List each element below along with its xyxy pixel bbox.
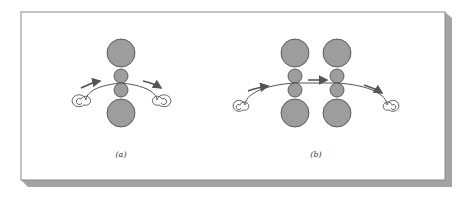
work-roll-top bbox=[114, 69, 128, 83]
backup-roll-top bbox=[281, 39, 309, 67]
backup-roll-bottom bbox=[107, 99, 135, 127]
backup-roll-top bbox=[323, 39, 351, 67]
work-roll-bottom bbox=[288, 83, 302, 97]
work-roll-top bbox=[288, 69, 302, 83]
backup-roll-top bbox=[107, 39, 135, 67]
panel-b-label: (b) bbox=[310, 150, 321, 159]
backup-roll-bottom bbox=[281, 99, 309, 127]
rolling-mill-diagram: (a) (b) bbox=[0, 0, 470, 197]
backup-roll-bottom bbox=[323, 99, 351, 127]
work-roll-bottom bbox=[114, 83, 128, 97]
panel-a-label: (a) bbox=[115, 150, 126, 159]
work-roll-top bbox=[330, 69, 344, 83]
work-roll-bottom bbox=[330, 83, 344, 97]
